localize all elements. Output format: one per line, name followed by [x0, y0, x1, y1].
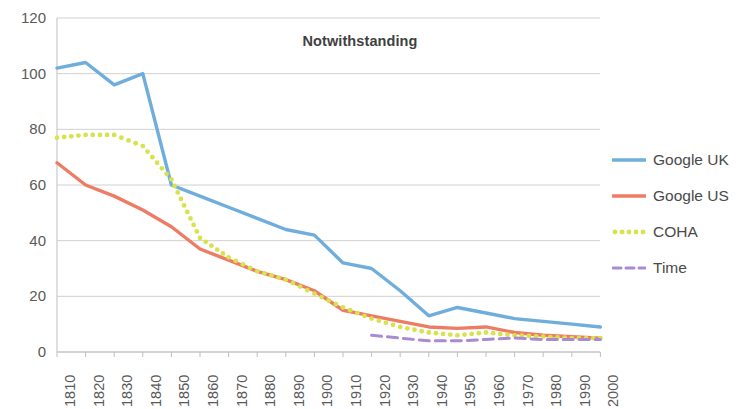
data-dot: [262, 271, 267, 276]
x-axis-tick-label: 1850: [177, 375, 192, 407]
data-dot: [398, 325, 403, 330]
data-dot: [155, 160, 160, 165]
data-dot: [248, 265, 253, 270]
chart-legend: Google UKGoogle USCOHATime: [612, 142, 729, 286]
legend-swatch-icon: [612, 225, 646, 239]
data-dot: [298, 284, 303, 289]
y-axis-tick-label: 40: [6, 233, 46, 248]
legend-item[interactable]: COHA: [612, 214, 729, 250]
legend-swatch-icon: [612, 153, 646, 167]
legend-swatch-icon: [612, 261, 646, 275]
data-dot: [369, 316, 374, 321]
data-dot: [76, 133, 81, 138]
x-axis-tick-label: 1940: [435, 375, 450, 407]
y-axis-tick-label: 80: [6, 121, 46, 136]
data-dot: [194, 229, 199, 234]
data-dot: [209, 243, 214, 248]
data-dot: [384, 320, 389, 325]
data-dot: [312, 291, 317, 296]
legend-swatch-icon: [612, 189, 646, 203]
x-axis-tick-label: 1980: [549, 375, 564, 407]
x-axis-tick-label: 1970: [521, 375, 536, 407]
data-dot: [391, 322, 396, 327]
data-dot: [376, 318, 381, 323]
data-dot: [98, 133, 103, 138]
data-dot: [159, 166, 164, 171]
data-dot: [69, 134, 74, 139]
data-dot: [119, 135, 124, 140]
data-dot: [333, 302, 338, 307]
data-dot: [269, 273, 274, 278]
x-axis-tick-label: 1910: [349, 375, 364, 407]
data-dot: [276, 275, 281, 280]
data-dot: [476, 331, 481, 336]
x-axis-tick-label: 1830: [120, 375, 135, 407]
x-axis-tick-label: 1900: [320, 375, 335, 407]
data-dot: [462, 332, 467, 337]
legend-label: COHA: [653, 223, 698, 241]
data-dot: [203, 239, 208, 244]
x-axis-tick-label: 1860: [206, 375, 221, 407]
data-dot: [145, 149, 150, 154]
data-dot: [188, 216, 193, 221]
data-dot: [355, 311, 360, 316]
data-dot: [498, 332, 503, 337]
series-google-uk: [57, 63, 600, 327]
x-axis-tick-label: 1950: [463, 375, 478, 407]
data-dot: [150, 155, 155, 160]
data-dot: [283, 277, 288, 282]
x-axis-tick-label: 2000: [606, 375, 621, 407]
data-dot: [348, 308, 353, 313]
data-dot: [226, 255, 231, 260]
data-dot: [484, 330, 489, 335]
x-axis-tick-label: 1870: [235, 375, 250, 407]
data-dot: [326, 298, 331, 303]
data-dot: [140, 144, 145, 149]
legend-item[interactable]: Google US: [612, 178, 729, 214]
data-dot: [434, 331, 439, 336]
data-dot: [185, 210, 190, 215]
x-axis-tick-label: 1990: [578, 375, 593, 407]
data-dot: [215, 247, 220, 252]
data-dot: [112, 133, 117, 138]
y-axis-tick-label: 0: [6, 344, 46, 359]
data-dot: [291, 281, 296, 286]
data-dot: [220, 251, 225, 256]
data-dot: [405, 326, 410, 331]
data-dot: [441, 332, 446, 337]
legend-label: Time: [653, 259, 687, 277]
data-dot: [164, 171, 169, 176]
legend-label: Google US: [653, 187, 729, 205]
data-dot: [319, 295, 324, 300]
data-dot: [455, 333, 460, 338]
data-dot: [469, 332, 474, 337]
x-axis-ticks: [57, 352, 600, 357]
legend-item[interactable]: Google UK: [612, 142, 729, 178]
data-dot: [126, 138, 131, 143]
x-axis-tick-label: 1930: [406, 375, 421, 407]
data-dot: [182, 203, 187, 208]
data-dot: [233, 258, 238, 263]
y-axis-tick-label: 120: [6, 10, 46, 25]
legend-item[interactable]: Time: [612, 250, 729, 286]
data-dot: [90, 133, 95, 138]
y-axis-tick-label: 20: [6, 288, 46, 303]
data-dot: [362, 313, 367, 318]
y-axis-tick-label: 60: [6, 177, 46, 192]
data-series-group: [55, 63, 603, 341]
data-dot: [241, 262, 246, 267]
legend-label: Google UK: [653, 151, 729, 169]
x-axis-tick-label: 1920: [378, 375, 393, 407]
series-coha: [55, 133, 603, 341]
data-dot: [448, 332, 453, 337]
data-dot: [179, 197, 184, 202]
data-dot: [169, 177, 174, 182]
data-dot: [412, 327, 417, 332]
data-dot: [491, 331, 496, 336]
x-axis-tick-label: 1880: [263, 375, 278, 407]
data-dot: [62, 135, 67, 140]
data-dot: [426, 330, 431, 335]
x-axis-tick-label: 1840: [149, 375, 164, 407]
x-axis-tick-label: 1820: [92, 375, 107, 407]
line-chart: Notwithstanding 120100806040200 18101820…: [0, 0, 737, 409]
